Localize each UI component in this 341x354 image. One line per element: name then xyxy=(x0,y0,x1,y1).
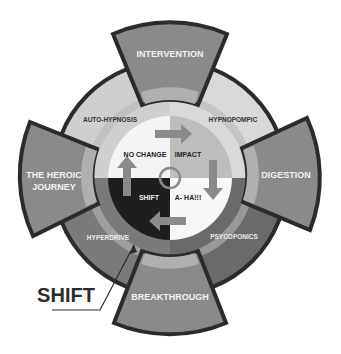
callout-shift: SHIFT xyxy=(37,284,95,306)
cycle-diagram: INTERVENTION THE HEROIC JOURNEY DIGESTIO… xyxy=(0,0,341,354)
quadrant-aha: A- HA!!! xyxy=(175,194,201,201)
quadrant-no-change: NO CHANGE xyxy=(124,151,167,158)
ring-label-psycoponics: PSYCOPONICS xyxy=(210,233,258,240)
quadrant-shift: SHIFT xyxy=(139,194,160,201)
tab-label-heroic-2: JOURNEY xyxy=(32,182,76,192)
tab-label-heroic-1: THE HEROIC xyxy=(26,170,82,180)
tab-label-intervention: INTERVENTION xyxy=(137,49,204,59)
quadrant-impact: IMPACT xyxy=(175,151,202,158)
ring-label-auto-hypnosis: AUTO-HYPNOSIS xyxy=(83,116,138,123)
ring-label-hyperdrive: HYPERDRIVE xyxy=(87,234,130,241)
tab-label-breakthrough: BREAKTHROUGH xyxy=(131,292,209,302)
tab-label-digestion: DIGESTION xyxy=(261,170,311,180)
ring-label-hypnopompic: HYPNOPOMPIC xyxy=(209,116,258,123)
